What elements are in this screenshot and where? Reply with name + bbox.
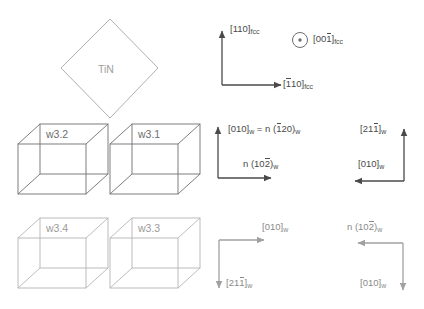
- label-211bar-lower-left-sub: w: [247, 282, 252, 289]
- axis-group-fcc: [222, 31, 281, 85]
- label-010-w-lower-left: [010]w: [262, 222, 288, 233]
- label-equals-n120: = n (120): [254, 123, 295, 134]
- label-010-lower-right-sub: w: [381, 282, 386, 289]
- label-010-w-bracket: [010]: [228, 123, 249, 134]
- label-1bar10-fcc-sub: fcc: [304, 83, 313, 90]
- label-n120-sub: w: [295, 128, 300, 135]
- label-010-w-equation: [010]w = n (120)w: [228, 124, 300, 135]
- label-010-lower-left-bracket: [010]: [262, 221, 283, 232]
- label-n102bar-lower-right-text: n (102): [347, 221, 377, 232]
- label-110-fcc: [110]fcc: [230, 24, 259, 35]
- label-001bar-fcc-bracket: [001]: [313, 33, 334, 44]
- tin-label: TiN: [98, 63, 114, 75]
- label-n102bar-w-lower-right: n (102)w: [347, 222, 382, 233]
- cube-label-w3-4: w3.4: [46, 222, 68, 234]
- label-110-fcc-sub: fcc: [250, 28, 259, 35]
- label-211bar-w-upper: [211]w: [360, 124, 386, 135]
- cube-label-w3-2: w3.2: [46, 128, 68, 140]
- axis-group-w-upper-left: [218, 127, 271, 178]
- label-n102bar-w-upper: n (102)w: [243, 159, 278, 170]
- out-of-plane-circle-dot-icon: [293, 33, 308, 48]
- label-110-fcc-bracket: [110]: [230, 23, 250, 34]
- cube-label-w3-1: w3.1: [138, 128, 160, 140]
- vector-layer: [0, 0, 424, 309]
- label-010-w-lower-right: [010]w: [360, 278, 386, 289]
- cube-label-w3-3: w3.3: [138, 222, 160, 234]
- label-010-upper-right-bracket: [010]: [358, 158, 379, 169]
- label-n102bar-upper-text: n (102): [243, 158, 273, 169]
- label-211bar-lower-left-text: [211]: [226, 277, 247, 288]
- label-1bar10-fcc: [110]fcc: [283, 79, 313, 90]
- label-010-upper-right-sub: w: [379, 163, 384, 170]
- label-010-lower-left-sub: w: [283, 226, 288, 233]
- label-n102bar-lower-right-sub: w: [377, 226, 382, 233]
- label-010-w-upper-right: [010]w: [358, 159, 384, 170]
- figure-canvas: TiN w3.2 w3.1 w3.4 w3.3 [110]fcc [110]fc…: [0, 0, 424, 309]
- label-n102bar-upper-sub: w: [273, 163, 278, 170]
- label-001bar-fcc-sub: fcc: [334, 38, 343, 45]
- label-211bar-upper-sub: w: [381, 128, 386, 135]
- label-211bar-w-lower-left: [211]w: [226, 278, 252, 289]
- label-010-lower-right-bracket: [010]: [360, 277, 381, 288]
- label-001bar-fcc: [001]fcc: [313, 34, 343, 45]
- label-211bar-upper-text: [211]: [360, 123, 381, 134]
- axis-group-w-upper-right: [355, 129, 404, 181]
- label-1bar10-fcc-bracket: [110]: [283, 78, 304, 89]
